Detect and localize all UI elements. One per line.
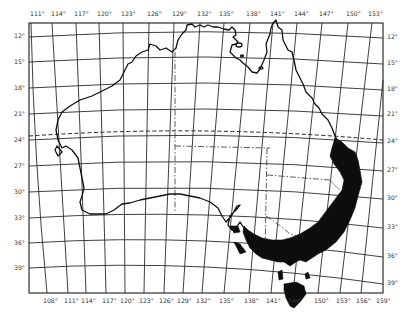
svg-text:36°: 36° — [14, 239, 25, 246]
svg-text:132°: 132° — [196, 297, 211, 304]
svg-text:135°: 135° — [219, 10, 234, 17]
islands — [55, 43, 263, 156]
svg-text:150°: 150° — [314, 297, 329, 304]
svg-text:126°: 126° — [159, 297, 174, 304]
svg-text:27°: 27° — [14, 162, 25, 169]
map-frame — [29, 23, 383, 293]
svg-text:156°: 156° — [356, 297, 371, 304]
top-longitude-labels: 111° 114° 117° 120° 123° 126° 129° 132° … — [30, 10, 383, 17]
svg-text:117°: 117° — [102, 297, 117, 304]
svg-text:123°: 123° — [121, 10, 136, 17]
river — [330, 180, 340, 190]
tasmania-shaded — [284, 282, 306, 308]
svg-text:36°: 36° — [387, 252, 398, 259]
svg-text:114°: 114° — [81, 297, 96, 304]
svg-text:24°: 24° — [14, 136, 25, 143]
bottom-longitude-labels: 108° 111° 114° 117° 120° 123° 126° 129° … — [43, 297, 391, 304]
svg-text:15°: 15° — [387, 59, 398, 66]
meridians — [31, 23, 383, 293]
svg-text:141°: 141° — [266, 297, 281, 304]
svg-text:159°: 159° — [376, 297, 391, 304]
svg-text:117°: 117° — [74, 10, 89, 17]
svg-text:18°: 18° — [14, 84, 25, 91]
svg-text:111°: 111° — [30, 10, 45, 17]
svg-text:120°: 120° — [97, 10, 112, 17]
svg-text:18°: 18° — [387, 85, 398, 92]
svg-text:153°: 153° — [368, 10, 383, 17]
svg-text:147°: 147° — [319, 10, 334, 17]
svg-text:138°: 138° — [246, 10, 261, 17]
svg-text:144°: 144° — [294, 10, 309, 17]
svg-text:153°: 153° — [336, 297, 351, 304]
svg-text:123°: 123° — [139, 297, 154, 304]
svg-text:30°: 30° — [387, 194, 398, 201]
svg-text:21°: 21° — [14, 110, 25, 117]
svg-text:120°: 120° — [120, 297, 135, 304]
svg-text:39°: 39° — [14, 264, 25, 271]
svg-text:39°: 39° — [387, 279, 398, 286]
svg-text:150°: 150° — [346, 10, 361, 17]
svg-text:24°: 24° — [387, 137, 398, 144]
svg-text:27°: 27° — [387, 166, 398, 173]
svg-text:15°: 15° — [14, 58, 25, 65]
australia-coastline — [56, 20, 358, 260]
svg-text:144°: 144° — [288, 297, 303, 304]
svg-text:108°: 108° — [43, 297, 58, 304]
svg-text:129°: 129° — [172, 10, 187, 17]
svg-text:12°: 12° — [387, 33, 398, 40]
svg-text:21°: 21° — [387, 110, 398, 117]
svg-text:129°: 129° — [177, 297, 192, 304]
svg-text:132°: 132° — [197, 10, 212, 17]
australia-map: 111° 114° 117° 120° 123° 126° 129° 132° … — [0, 0, 409, 317]
svg-text:33°: 33° — [14, 214, 25, 221]
svg-text:111°: 111° — [64, 297, 79, 304]
svg-text:138°: 138° — [244, 297, 259, 304]
svg-text:33°: 33° — [387, 223, 398, 230]
svg-text:141°: 141° — [270, 10, 285, 17]
svg-text:30°: 30° — [14, 188, 25, 195]
right-latitude-labels: 12° 15° 18° 21° 24° 27° 30° 33° 36° 39° — [387, 33, 398, 286]
svg-text:114°: 114° — [51, 10, 66, 17]
svg-text:135°: 135° — [219, 297, 234, 304]
left-latitude-labels: 12° 15° 18° 21° 24° 27° 30° 33° 36° 39° — [14, 32, 25, 271]
svg-text:126°: 126° — [147, 10, 162, 17]
svg-text:12°: 12° — [14, 32, 25, 39]
